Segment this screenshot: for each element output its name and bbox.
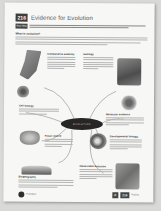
footer-label: Activity bbox=[131, 193, 139, 196]
section-biogeography: Biogeography bbox=[18, 176, 73, 189]
publisher-logo-icon bbox=[18, 192, 24, 198]
center-label: EVOLUTION bbox=[73, 122, 91, 125]
section-heading: Comparative anatomy bbox=[47, 53, 75, 56]
section-cell-biology: Cell biology bbox=[19, 105, 59, 116]
key-idea: Key Idea bbox=[16, 24, 146, 30]
section-fossil: Fossil record bbox=[45, 135, 73, 148]
section-anatomy: Comparative anatomy bbox=[47, 53, 75, 71]
section-heading: Fossil record bbox=[45, 135, 73, 138]
section-geology: Geology bbox=[83, 53, 113, 71]
publisher-name: Publisher bbox=[26, 193, 36, 196]
fossil-image bbox=[20, 131, 40, 145]
section-heading: Geology bbox=[83, 53, 113, 56]
geology-image bbox=[117, 58, 141, 85]
section-heading: Molecular evidence bbox=[106, 113, 144, 116]
molecular-image bbox=[120, 95, 138, 110]
section-observation: Observable evolution bbox=[79, 165, 112, 180]
worksheet-page: 216 Evidence for Evolution Key Idea What… bbox=[3, 2, 154, 202]
embryo-image bbox=[90, 133, 107, 149]
section-heading: Biogeography bbox=[18, 176, 73, 179]
key-idea-text bbox=[30, 24, 146, 30]
section-molecular: Molecular evidence bbox=[106, 113, 144, 126]
section-heading: Developmental biology bbox=[110, 135, 142, 138]
observation-image bbox=[115, 163, 139, 189]
page-title: Evidence for Evolution bbox=[31, 15, 93, 21]
section-development: Developmental biology bbox=[110, 135, 142, 150]
section-heading: Observable evolution bbox=[80, 165, 113, 168]
cell-image bbox=[16, 86, 30, 98]
key-idea-label: Key Idea bbox=[16, 24, 28, 29]
intro-section: What is evolution? bbox=[15, 32, 147, 47]
section-heading: Cell biology bbox=[19, 105, 59, 108]
intro-heading: What is evolution? bbox=[15, 32, 147, 37]
footer-badge-number: 216 bbox=[120, 192, 129, 198]
footer-badge-left: P bbox=[112, 192, 118, 198]
biogeography-image bbox=[21, 166, 51, 175]
activity-number: 216 bbox=[16, 14, 28, 22]
center-evolution-oval: EVOLUTION bbox=[61, 118, 103, 130]
title-bar: 216 Evidence for Evolution bbox=[16, 14, 93, 23]
